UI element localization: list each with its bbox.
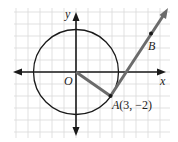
y-axis-down-arrow-icon xyxy=(73,127,80,136)
y-axis-label: y xyxy=(64,7,71,21)
grid xyxy=(14,8,170,138)
y-axis-up-arrow-icon xyxy=(73,12,80,21)
coordinate-diagram: y x O B A(3, −2) xyxy=(0,0,178,142)
x-axis-label: x xyxy=(159,74,166,88)
x-axis xyxy=(13,69,166,76)
point-a-label: A(3, −2) xyxy=(111,98,152,112)
origin-label: O xyxy=(64,74,73,88)
point-b xyxy=(149,32,153,36)
point-b-label: B xyxy=(148,39,156,53)
x-axis-left-arrow-icon xyxy=(13,69,22,76)
point-a-coords: (3, −2) xyxy=(119,98,152,112)
